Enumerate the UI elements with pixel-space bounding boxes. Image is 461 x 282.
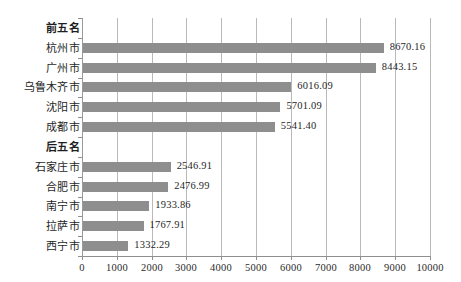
category-label-4: 沈阳市 [2,101,80,113]
bar-9 [82,201,149,211]
bar-value-label-3: 6016.09 [297,80,333,91]
bar-chart: 前五名杭州市广州市乌鲁木齐市沈阳市成都市后五名石家庄市合肥市南宁市拉萨市西宁市 … [0,0,461,282]
x-tick-label-4000: 4000 [210,262,232,273]
x-tick-label-7000: 7000 [315,262,337,273]
bar-value-label-11: 1332.29 [134,239,170,250]
y-axis-line [82,18,83,257]
x-tick-4000 [221,256,222,260]
x-tick-label-6000: 6000 [280,262,302,273]
x-tick-9000 [395,256,396,260]
gridline-8000 [360,18,361,256]
category-label-group-0: 前五名 [2,22,80,34]
x-tick-7000 [326,256,327,260]
category-label-11: 西宁市 [2,240,80,252]
bar-value-label-7: 2546.91 [177,160,213,171]
gridline-3000 [186,18,187,256]
x-tick-label-1000: 1000 [106,262,128,273]
gridline-5000 [256,18,257,256]
x-tick-label-3000: 3000 [175,262,197,273]
x-tick-label-2000: 2000 [141,262,163,273]
bar-3 [82,82,291,92]
bar-4 [82,102,280,112]
gridline-9000 [395,18,396,256]
bar-value-label-4: 5701.09 [286,100,322,111]
x-tick-2000 [152,256,153,260]
bar-5 [82,122,275,132]
bar-value-label-10: 1767.91 [150,219,186,230]
category-label-9: 南宁市 [2,200,80,212]
category-label-group-6: 后五名 [2,141,80,153]
bar-value-label-5: 5541.40 [281,120,317,131]
x-tick-6000 [291,256,292,260]
bar-value-label-8: 2476.99 [174,180,210,191]
x-tick-label-9000: 9000 [384,262,406,273]
x-tick-8000 [360,256,361,260]
bar-7 [82,162,171,172]
x-tick-label-5000: 5000 [245,262,267,273]
bar-value-label-2: 8443.15 [382,61,418,72]
category-label-2: 广州市 [2,62,80,74]
bar-value-label-1: 8670.16 [390,41,426,52]
gridline-4000 [221,18,222,256]
x-tick-3000 [186,256,187,260]
bar-11 [82,241,128,251]
category-axis-labels: 前五名杭州市广州市乌鲁木齐市沈阳市成都市后五名石家庄市合肥市南宁市拉萨市西宁市 [0,0,80,282]
bar-2 [82,63,376,73]
gridline-6000 [291,18,292,256]
gridline-7000 [326,18,327,256]
x-tick-label-8000: 8000 [349,262,371,273]
category-label-5: 成都市 [2,121,80,133]
bar-value-label-9: 1933.86 [155,199,191,210]
category-label-10: 拉萨市 [2,220,80,232]
bar-10 [82,221,144,231]
category-label-7: 石家庄市 [2,161,80,173]
x-tick-10000 [430,256,431,260]
category-label-1: 杭州市 [2,42,80,54]
x-tick-1000 [117,256,118,260]
gridline-10000 [430,18,431,256]
plot-area [82,18,430,256]
category-label-8: 合肥市 [2,181,80,193]
x-tick-5000 [256,256,257,260]
category-label-3: 乌鲁木齐市 [2,81,80,93]
x-tick-label-10000: 10000 [416,262,443,273]
x-tick-label-0: 0 [79,262,84,273]
bar-1 [82,43,384,53]
bar-8 [82,182,168,192]
